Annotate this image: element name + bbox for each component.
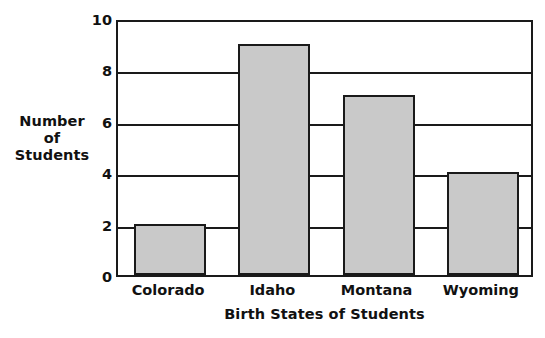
y-axis-tick-label: 2	[86, 218, 112, 233]
bar-wyoming	[447, 172, 519, 275]
x-axis-tick-label-idaho: Idaho	[249, 281, 295, 299]
plot-inner	[118, 22, 531, 275]
y-axis-tick-label: 6	[86, 116, 112, 131]
x-axis-tick-label-wyoming: Wyoming	[443, 281, 519, 299]
x-axis-tick-labels: ColoradoIdahoMontanaWyoming	[116, 281, 533, 303]
y-axis-tick-label: 10	[86, 13, 112, 28]
bar-colorado	[134, 224, 206, 275]
bar-chart-figure: Number of Students 0246810 ColoradoIdaho…	[0, 0, 545, 338]
plot-area	[116, 20, 533, 277]
bar-montana	[343, 95, 415, 275]
bar-idaho	[238, 44, 310, 275]
y-axis-tick-label: 8	[86, 64, 112, 79]
x-axis-title: Birth States of Students	[116, 305, 533, 323]
gridline	[118, 72, 531, 74]
y-axis-tick-label: 0	[86, 270, 112, 285]
x-axis-tick-label-colorado: Colorado	[132, 281, 205, 299]
gridline	[118, 124, 531, 126]
x-axis-tick-label-montana: Montana	[341, 281, 413, 299]
y-axis-tick-label: 4	[86, 167, 112, 182]
y-axis-tick-labels: 0246810	[82, 20, 112, 277]
